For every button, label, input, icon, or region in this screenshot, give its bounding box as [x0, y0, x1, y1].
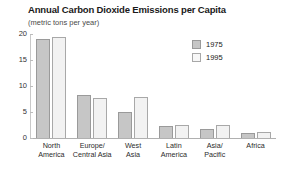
legend-item-1975[interactable]: 1975 — [192, 39, 223, 50]
y-axis-tick — [30, 138, 33, 139]
y-axis-tick-label: 10 — [3, 82, 27, 90]
bar-1995[interactable] — [257, 132, 271, 138]
y-axis-tick — [30, 86, 33, 87]
legend: 1975 1995 — [192, 39, 223, 65]
x-axis-tick-label: Latin America — [153, 141, 194, 159]
x-axis-tick-label: Asia/ Pacific — [194, 141, 235, 159]
bar-1975[interactable] — [159, 126, 173, 138]
x-axis-tick-label: North America — [31, 141, 72, 159]
bar-1995[interactable] — [216, 125, 230, 138]
bar-group — [113, 34, 154, 138]
bar-1995[interactable] — [52, 37, 66, 138]
y-axis-tick — [30, 34, 33, 35]
chart-subtitle: (metric tons per year) — [28, 17, 273, 28]
y-axis: 05101520 — [0, 34, 27, 139]
bar-1995[interactable] — [93, 98, 107, 138]
bar-group — [235, 34, 276, 138]
bar-1975[interactable] — [77, 95, 91, 138]
bar-1975[interactable] — [118, 112, 132, 138]
y-axis-tick-label: 0 — [3, 134, 27, 142]
legend-label-1975: 1975 — [206, 40, 223, 49]
legend-swatch-icon-1975 — [192, 40, 201, 49]
bar-1995[interactable] — [175, 125, 189, 138]
bar-1975[interactable] — [241, 133, 255, 138]
x-axis-tick-label: West Asia — [113, 141, 154, 159]
x-axis-tick-labels: North AmericaEurope/ Central AsiaWest As… — [31, 141, 276, 159]
chart-card: Annual Carbon Dioxide Emissions per Capi… — [0, 0, 281, 179]
y-axis-tick-label: 15 — [3, 56, 27, 64]
title-block: Annual Carbon Dioxide Emissions per Capi… — [28, 4, 273, 28]
y-axis-tick — [30, 60, 33, 61]
plot-bars — [31, 34, 276, 138]
x-axis-line — [30, 138, 276, 139]
y-axis-tick — [30, 112, 33, 113]
bar-group — [31, 34, 72, 138]
bar-group — [72, 34, 113, 138]
page-title: Annual Carbon Dioxide Emissions per Capi… — [28, 4, 273, 16]
bar-1975[interactable] — [200, 129, 214, 138]
bar-group — [153, 34, 194, 138]
legend-swatch-icon-1995 — [192, 53, 201, 62]
legend-item-1995[interactable]: 1995 — [192, 52, 223, 63]
y-axis-tick-label: 5 — [3, 108, 27, 116]
bar-1995[interactable] — [134, 97, 148, 138]
bar-1975[interactable] — [36, 39, 50, 138]
y-axis-tick-label: 20 — [3, 30, 27, 38]
x-axis-tick-label: Africa — [235, 141, 276, 159]
legend-label-1995: 1995 — [206, 53, 223, 62]
x-axis-tick-label: Europe/ Central Asia — [72, 141, 113, 159]
